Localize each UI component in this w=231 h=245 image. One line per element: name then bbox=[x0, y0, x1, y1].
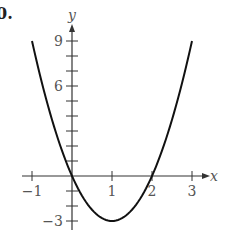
y-axis-arrow-icon bbox=[69, 24, 75, 32]
axes bbox=[22, 24, 210, 230]
y-tick-label: −3 bbox=[42, 213, 63, 229]
x-axis-arrow-icon bbox=[202, 173, 210, 179]
x-tick-label: 3 bbox=[188, 183, 197, 199]
tick-labels: −112396−3 bbox=[22, 33, 197, 229]
x-tick-label: 1 bbox=[108, 183, 117, 199]
x-axis-label: x bbox=[210, 168, 218, 184]
y-tick-label: 6 bbox=[54, 78, 63, 94]
y-axis-label: y bbox=[67, 7, 77, 23]
y-tick-label: 9 bbox=[54, 33, 63, 49]
x-tick-label: −1 bbox=[22, 183, 43, 199]
parabola-chart: −112396−3 x y bbox=[0, 0, 231, 245]
x-tick-label: 2 bbox=[148, 183, 157, 199]
